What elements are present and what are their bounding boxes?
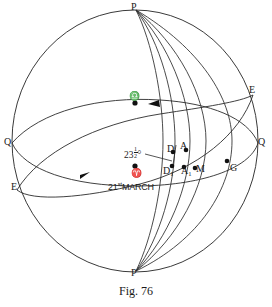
- label-equator-right: Q: [258, 137, 265, 147]
- label-point-d1-subscript: 1: [170, 170, 173, 177]
- label-point-d1: D1: [163, 166, 173, 176]
- label-point-g: G: [230, 163, 237, 173]
- point-libra-dot: [132, 100, 137, 105]
- label-equator-left: Q: [4, 137, 11, 147]
- label-point-d: D: [167, 144, 174, 154]
- libra-symbol-icon: ♎: [129, 92, 140, 101]
- sphere-outline: [12, 10, 258, 272]
- label-point-a1-subscript: 1: [188, 170, 191, 177]
- label-equinox-date: 21stMARCH: [108, 181, 154, 192]
- label-point-a1: A1: [181, 166, 191, 176]
- aries-symbol-icon: ♈: [131, 169, 142, 178]
- point-G-dot: [225, 159, 230, 164]
- obliquity-numerator: 1: [134, 146, 138, 153]
- meridian-2: [136, 10, 206, 271]
- label-point-a: A: [180, 141, 187, 151]
- label-ecliptic-left: E: [11, 182, 17, 192]
- obliquity-degree-sign: °: [138, 150, 142, 160]
- equator-direction-arrow: [148, 100, 160, 107]
- ecliptic-direction-arrow: [80, 172, 90, 179]
- label-pole-south: P: [131, 268, 137, 278]
- obliquity-whole-number: 23: [124, 150, 134, 160]
- label-obliquity-angle: 2312°: [124, 147, 141, 161]
- figure-caption: Fig. 76: [0, 284, 272, 299]
- label-date-day: 21: [108, 182, 118, 192]
- obliquity-denominator: 2: [134, 153, 138, 159]
- meridian-4: [136, 10, 163, 271]
- obliquity-fraction: 12: [134, 146, 138, 159]
- label-ecliptic-right: E: [249, 85, 255, 95]
- label-pole-north: P: [131, 2, 137, 12]
- celestial-sphere-figure: P P Q Q E E G D A D1 A1 M ♎ ♈ 21stMARCH …: [0, 0, 272, 307]
- meridian-3: [136, 10, 175, 271]
- equator-back-arc: [12, 99, 258, 143]
- label-point-m: M: [196, 164, 205, 174]
- label-date-month: MARCH: [122, 182, 154, 192]
- obliquity-leader-line: [145, 154, 172, 161]
